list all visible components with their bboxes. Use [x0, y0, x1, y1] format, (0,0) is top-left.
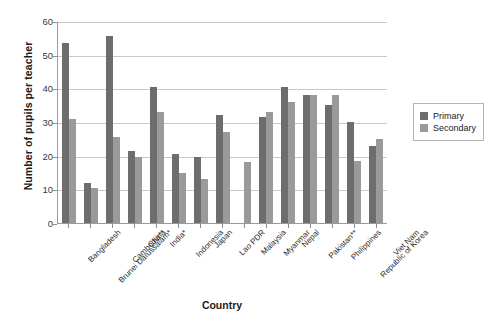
bar-primary: [172, 154, 179, 223]
y-axis-tick-label: 20: [13, 151, 53, 162]
legend-swatch-primary: [420, 112, 428, 120]
bar-secondary: [266, 112, 273, 223]
bar-primary: [84, 183, 91, 223]
y-axis-tick-label: 50: [13, 50, 53, 61]
x-axis-tick-label: Bangladesh: [86, 228, 122, 264]
bar-secondary: [244, 162, 251, 223]
bar-primary: [347, 122, 354, 223]
bar-secondary: [376, 139, 383, 223]
bar-primary: [303, 95, 310, 223]
bar-secondary: [354, 161, 361, 223]
y-axis-tick-label: 40: [13, 83, 53, 94]
bar-secondary: [288, 102, 295, 223]
bar-group: [58, 22, 80, 223]
bar-secondary: [201, 179, 208, 223]
bar-primary: [62, 43, 69, 223]
bar-secondary: [223, 132, 230, 223]
bar-secondary: [179, 173, 186, 224]
bar-secondary: [310, 95, 317, 223]
y-axis-tick-label: 0: [13, 218, 53, 229]
bar-primary: [128, 151, 135, 223]
bar-primary: [106, 36, 113, 223]
bar-group: [124, 22, 146, 223]
x-axis-tick-labels: BangladeshBrunei Darussalam*Cambodia**Ch…: [57, 228, 387, 294]
bar-primary: [194, 157, 201, 223]
bar-primary: [281, 87, 288, 223]
bar-group: [234, 22, 256, 223]
bar-primary: [150, 87, 157, 223]
legend-label: Secondary: [433, 123, 476, 133]
bar-group: [299, 22, 321, 223]
bar-groups: [58, 22, 387, 223]
legend-item: Secondary: [420, 123, 476, 133]
bar-group: [80, 22, 102, 223]
y-axis-tick-label: 10: [13, 184, 53, 195]
bar-group: [146, 22, 168, 223]
bar-group: [343, 22, 365, 223]
bar-group: [321, 22, 343, 223]
legend-item: Primary: [420, 111, 476, 121]
legend-swatch-secondary: [420, 124, 428, 132]
bar-secondary: [135, 157, 142, 223]
y-axis-tick-label: 60: [13, 16, 53, 27]
bar-secondary: [91, 188, 98, 223]
bar-group: [212, 22, 234, 223]
bar-group: [255, 22, 277, 223]
bar-group: [190, 22, 212, 223]
bar-secondary: [113, 137, 120, 223]
legend-label: Primary: [433, 111, 464, 121]
bar-group: [277, 22, 299, 223]
bar-secondary: [69, 119, 76, 223]
x-axis-title: Country: [57, 299, 387, 311]
bar-secondary: [157, 112, 164, 223]
bar-primary: [325, 105, 332, 223]
bar-secondary: [332, 95, 339, 223]
bar-primary: [259, 117, 266, 223]
bar-chart-figure: Number of pupils per teacher 01020304050…: [0, 0, 504, 324]
x-axis-tick-label: Republic of Korea: [379, 228, 430, 279]
bar-group: [102, 22, 124, 223]
chart-legend: PrimarySecondary: [413, 103, 484, 141]
bar-primary: [216, 115, 223, 223]
plot-area: [57, 22, 387, 224]
bar-primary: [369, 146, 376, 223]
y-axis-tick-label: 30: [13, 117, 53, 128]
bar-group: [168, 22, 190, 223]
bar-group: [365, 22, 387, 223]
